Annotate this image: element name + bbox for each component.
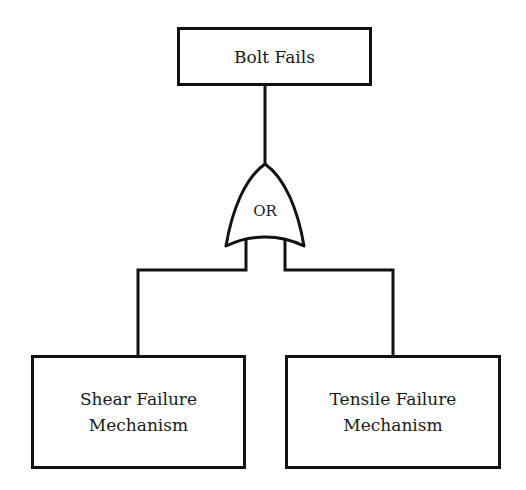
tensile-label-line1: Tensile Failure	[330, 386, 457, 412]
basic-event-shear: Shear Failure Mechanism	[31, 355, 246, 469]
tensile-label-line2: Mechanism	[330, 412, 457, 438]
top-event-box: Bolt Fails	[177, 27, 372, 86]
shear-label-line1: Shear Failure	[80, 386, 197, 412]
shear-label-line2: Mechanism	[80, 412, 197, 438]
right-branch-connector	[285, 238, 393, 356]
top-event-label: Bolt Fails	[234, 44, 315, 70]
basic-event-tensile: Tensile Failure Mechanism	[285, 355, 501, 469]
or-gate-label: OR	[235, 202, 295, 220]
left-branch-connector	[138, 238, 246, 356]
